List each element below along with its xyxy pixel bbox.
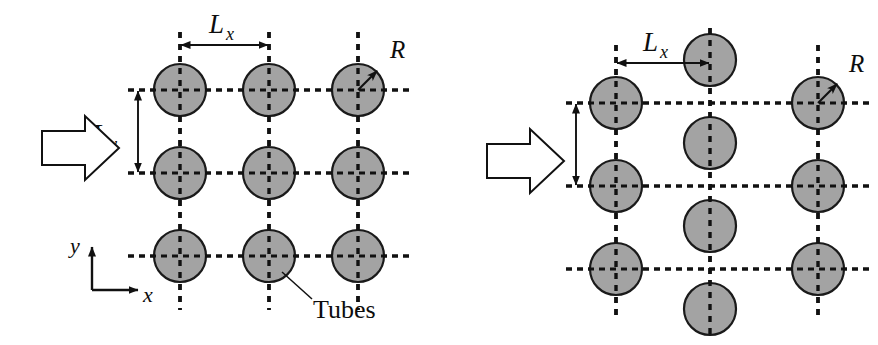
panel-staggered-arrangement: L x L y R [487, 27, 872, 340]
tube-bundle-diagram: L x L y R Tubes y [0, 0, 878, 345]
lx-label: L [208, 9, 224, 39]
tubes-leader-line [282, 272, 312, 299]
lx-sublabel: x [225, 24, 234, 44]
st-radius-label: R [848, 50, 864, 77]
panel-inline-arrangement: L x L y R Tubes y [42, 9, 414, 324]
flow-arrow-staggered-icon [487, 129, 564, 193]
flow-arrow-inline-icon [42, 116, 119, 180]
radius-label: R [389, 36, 405, 63]
axis-x-label: x [142, 282, 153, 307]
st-lx-sublabel: x [659, 42, 668, 62]
coordinate-axes: y x [68, 233, 153, 307]
axis-y-label: y [68, 233, 80, 258]
st-lx-label: L [642, 27, 658, 57]
inline-dimension-lx: L x [181, 9, 268, 45]
staggered-tubes [590, 34, 844, 335]
tubes-label: Tubes [313, 295, 376, 324]
figure-root: L x L y R Tubes y [0, 0, 878, 345]
